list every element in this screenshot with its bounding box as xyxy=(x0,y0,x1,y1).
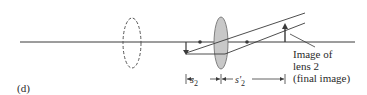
caption-line-2: lens 2 xyxy=(293,60,350,72)
final-image-caption: Image of lens 2 (final image) xyxy=(293,48,350,84)
caption-line-3: (final image) xyxy=(293,72,350,84)
focal-point-right xyxy=(245,40,249,44)
s2-prime-label: s′2 xyxy=(235,74,245,90)
lens-1-dashed xyxy=(123,18,141,68)
focal-point-left xyxy=(198,40,202,44)
caption-line-1: Image of xyxy=(293,48,350,60)
panel-label: (d) xyxy=(17,82,30,94)
ray-1 xyxy=(186,13,305,53)
final-image-arrowhead xyxy=(282,23,288,29)
caption-leader xyxy=(290,34,315,47)
s2-label: s2 xyxy=(190,74,198,90)
